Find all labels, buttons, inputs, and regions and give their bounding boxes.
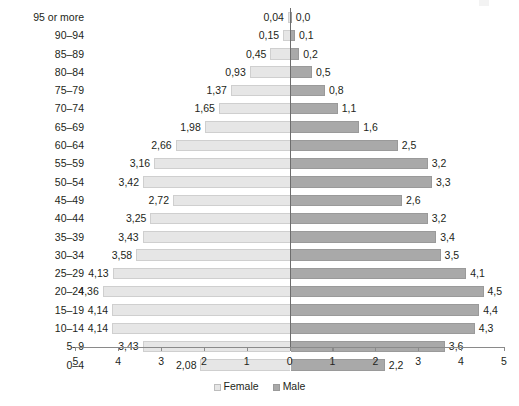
bar-female[interactable] [205, 121, 290, 132]
bar-male[interactable] [291, 158, 428, 169]
pyramid-row: 65–691,981,6 [0, 118, 519, 136]
bar-male[interactable] [291, 286, 484, 297]
bar-male[interactable] [291, 12, 292, 23]
value-label-female: 1,65 [155, 99, 215, 117]
value-label-female: 3,16 [90, 154, 150, 172]
row-bars: 1,370,8 [0, 81, 519, 99]
pyramid-row: 95 or more0,040,0 [0, 8, 519, 26]
bar-female[interactable] [270, 48, 289, 59]
value-label-male: 3,5 [445, 246, 505, 264]
pyramid-row: 45–492,722,6 [0, 191, 519, 209]
chart-legend: FemaleMale [0, 380, 519, 392]
pyramid-row: 55–593,163,2 [0, 154, 519, 172]
bar-female[interactable] [176, 140, 290, 151]
row-bars: 4,144,4 [0, 301, 519, 319]
x-axis-tick [118, 347, 119, 351]
x-axis-tick [375, 347, 376, 351]
bar-male[interactable] [291, 48, 300, 59]
pyramid-row: 80–840,930,5 [0, 63, 519, 81]
bar-female[interactable] [250, 66, 290, 77]
row-bars: 1,981,6 [0, 118, 519, 136]
value-label-male: 3,3 [436, 173, 496, 191]
row-bars: 0,930,5 [0, 63, 519, 81]
x-axis-tick-label: 3 [403, 355, 433, 367]
bar-male[interactable] [291, 176, 432, 187]
population-pyramid-chart: 95 or more0,040,090–940,150,185–890,450,… [0, 0, 519, 406]
pyramid-row: 60–642,662,5 [0, 136, 519, 154]
pyramid-row: 50–543,423,3 [0, 173, 519, 191]
bar-male[interactable] [291, 249, 441, 260]
value-label-male: 4,3 [479, 319, 519, 337]
row-bars: 3,163,2 [0, 154, 519, 172]
legend-label: Female [224, 380, 259, 392]
pyramid-rows: 95 or more0,040,090–940,150,185–890,450,… [0, 8, 519, 374]
pyramid-row: 15–194,144,4 [0, 301, 519, 319]
value-label-male: 2,6 [406, 191, 466, 209]
bar-female[interactable] [150, 213, 289, 224]
x-axis-tick [204, 347, 205, 351]
value-label-male: 2,5 [402, 136, 462, 154]
x-axis-tick [247, 347, 248, 351]
value-label-female: 0,04 [224, 8, 284, 26]
bar-male[interactable] [291, 268, 467, 279]
bar-female[interactable] [136, 249, 289, 260]
bar-male[interactable] [291, 30, 295, 41]
bar-male[interactable] [291, 195, 402, 206]
pyramid-row: 30–343,583,5 [0, 246, 519, 264]
bar-male[interactable] [291, 213, 428, 224]
value-label-female: 0,93 [186, 63, 246, 81]
bar-female[interactable] [113, 268, 290, 279]
x-axis-tick [332, 347, 333, 351]
bar-male[interactable] [291, 231, 437, 242]
value-label-female: 1,98 [141, 118, 201, 136]
row-bars: 0,450,2 [0, 45, 519, 63]
value-label-male: 0,2 [303, 45, 363, 63]
value-label-female: 1,37 [167, 81, 227, 99]
row-bars: 3,253,2 [0, 209, 519, 227]
bar-male[interactable] [291, 121, 360, 132]
value-label-male: 0,1 [299, 26, 359, 44]
bar-male[interactable] [291, 323, 475, 334]
bar-female[interactable] [112, 323, 289, 334]
legend-swatch-icon [273, 384, 280, 391]
bar-female[interactable] [143, 176, 290, 187]
bar-male[interactable] [291, 66, 312, 77]
value-label-female: 4,13 [49, 264, 109, 282]
x-axis-tick-label: 3 [146, 355, 176, 367]
value-label-male: 3,4 [440, 228, 500, 246]
legend-item-male[interactable]: Male [273, 380, 306, 392]
bar-female[interactable] [103, 286, 290, 297]
legend-label: Male [283, 380, 306, 392]
row-bars: 0,040,0 [0, 8, 519, 26]
bar-male[interactable] [291, 85, 325, 96]
value-label-female: 4,36 [39, 282, 99, 300]
pyramid-row: 35–393,433,4 [0, 228, 519, 246]
value-label-female: 2,72 [109, 191, 169, 209]
x-axis-tick-label: 4 [103, 355, 133, 367]
row-bars: 3,433,4 [0, 228, 519, 246]
value-label-female: 2,66 [112, 136, 172, 154]
bar-female[interactable] [231, 85, 290, 96]
bar-male[interactable] [291, 140, 398, 151]
value-label-male: 1,6 [363, 118, 423, 136]
row-bars: 2,722,6 [0, 191, 519, 209]
x-axis-tick [461, 347, 462, 351]
pyramid-row: 85–890,450,2 [0, 45, 519, 63]
bar-female[interactable] [112, 304, 289, 315]
legend-item-female[interactable]: Female [214, 380, 259, 392]
row-bars: 1,651,1 [0, 99, 519, 117]
bar-female[interactable] [143, 231, 290, 242]
bar-male[interactable] [291, 103, 338, 114]
row-bars: 4,364,5 [0, 282, 519, 300]
value-label-male: 3,2 [432, 154, 492, 172]
x-axis-tick-label: 4 [446, 355, 476, 367]
bar-female[interactable] [173, 195, 290, 206]
bar-male[interactable] [291, 304, 480, 315]
top-edge-artifact [479, 0, 489, 6]
pyramid-row: 20–244,364,5 [0, 282, 519, 300]
value-label-female: 0,15 [219, 26, 279, 44]
value-label-male: 0,0 [296, 8, 356, 26]
pyramid-row: 40–443,253,2 [0, 209, 519, 227]
bar-female[interactable] [154, 158, 289, 169]
bar-female[interactable] [219, 103, 290, 114]
